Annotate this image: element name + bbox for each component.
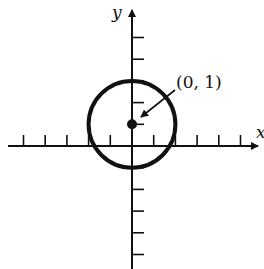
coordinate-plane	[0, 0, 264, 269]
x-axis-label: x	[256, 122, 264, 142]
y-axis-label: y	[112, 2, 122, 22]
center-point	[127, 119, 137, 129]
center-point-label: (0, 1)	[176, 72, 222, 92]
